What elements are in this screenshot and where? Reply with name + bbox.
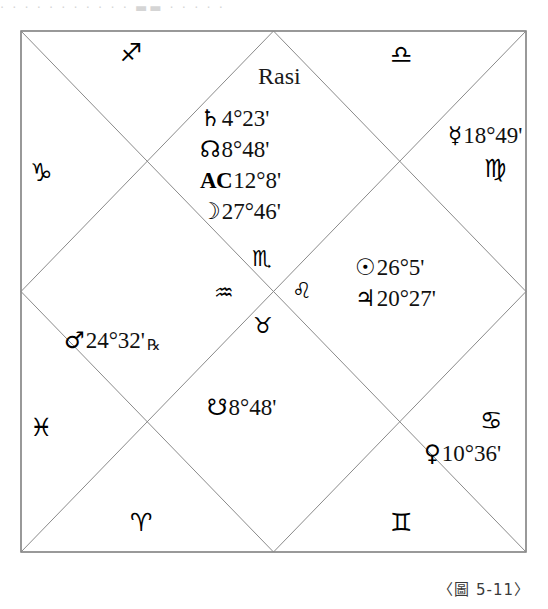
center-sign-taurus: ♉ (253, 315, 273, 337)
sun-glyph: ☉ (355, 252, 376, 282)
sign-gemini-glyph: ♊ (390, 510, 412, 535)
sign-libra-glyph: ♎ (390, 42, 412, 67)
house-libra: ♎ (390, 42, 412, 67)
house-top-planets: ♄ 4°23' ☊ 8°48' AC 12°8' ☽ 27°46' (200, 103, 281, 227)
center-sign-leo: ♌ (292, 280, 312, 302)
sign-aquarius-glyph: ♒ (214, 282, 234, 304)
placement-mars: ♂ 24°32' ℞ (64, 325, 160, 356)
sign-taurus-glyph: ♉ (253, 315, 273, 337)
sign-leo-glyph: ♌ (292, 280, 312, 302)
placement-mercury: ☿ 18°49' (448, 120, 522, 151)
saturn-degree: 4°23' (222, 104, 270, 134)
placement-saturn: ♄ 4°23' (200, 103, 281, 134)
scan-edge-artifact: · · · · · · · · · · · ▬▬ · · · · · (0, 0, 548, 12)
mercury-degree: 18°49' (463, 121, 522, 151)
placement-ascendant: AC 12°8' (200, 166, 281, 196)
placement-venus: ♀ 10°36' (424, 438, 502, 469)
house-mars: ♂ 24°32' ℞ (64, 325, 160, 356)
sign-capricorn-glyph: ♑ (30, 160, 52, 185)
south-node-degree: 8°48' (228, 393, 276, 423)
chart-title: Rasi (258, 63, 301, 90)
jupiter-glyph: ♃ (355, 283, 376, 313)
house-aries: ♈ (130, 510, 152, 535)
house-gemini: ♊ (390, 510, 412, 535)
north-node-glyph: ☊ (200, 134, 220, 164)
center-sign-scorpio: ♏ (252, 248, 272, 270)
house-right-planets: ☉ 26°5' ♃ 20°27' (355, 252, 436, 315)
rasi-chart-figure: ♐ ♎ Rasi ♄ 4°23' ☊ 8°48' AC 12°8' ☽ 27°4… (20, 30, 527, 553)
venus-degree: 10°36' (442, 439, 501, 469)
ascendant-glyph: AC (200, 166, 232, 196)
jupiter-degree: 20°27' (377, 284, 436, 314)
sign-virgo-glyph: ♍ (484, 154, 506, 183)
placement-south-node: ☋ 8°48' (207, 392, 276, 423)
venus-glyph: ♀ (424, 438, 441, 468)
placement-jupiter: ♃ 20°27' (355, 283, 436, 314)
sign-aries-glyph: ♈ (130, 510, 152, 535)
house-capricorn: ♑ (30, 160, 52, 185)
placement-north-node: ☊ 8°48' (200, 134, 281, 165)
center-sign-aquarius: ♒ (214, 282, 234, 304)
house-south-node: ☋ 8°48' (207, 392, 276, 423)
mars-glyph: ♂ (64, 325, 85, 355)
placement-sun: ☉ 26°5' (355, 252, 436, 283)
sign-cancer-glyph: ♋ (480, 406, 502, 435)
sign-scorpio-glyph: ♏ (252, 248, 272, 270)
mercury-glyph: ☿ (448, 120, 462, 150)
moon-degree: 27°46' (222, 197, 281, 227)
house-sagittarius: ♐ (120, 40, 142, 65)
moon-glyph: ☽ (200, 196, 221, 226)
mars-retrograde-marker: ℞ (147, 336, 160, 357)
house-mercury-virgo: ☿ 18°49' ♍ (448, 120, 522, 182)
ascendant-degree: 12°8' (233, 166, 281, 196)
sign-sagittarius-glyph: ♐ (120, 40, 142, 65)
mars-degree: 24°32' (86, 326, 145, 356)
sign-pisces-glyph: ♓ (30, 415, 52, 440)
house-cancer-venus: ♋ ♀ 10°36' (424, 408, 502, 469)
south-node-glyph: ☋ (207, 392, 227, 422)
saturn-glyph: ♄ (200, 103, 221, 133)
sun-degree: 26°5' (377, 253, 425, 283)
placement-moon: ☽ 27°46' (200, 196, 281, 227)
figure-caption: 〈圖 5-11〉 (438, 578, 530, 599)
north-node-degree: 8°48' (221, 135, 269, 165)
house-pisces: ♓ (30, 415, 52, 440)
